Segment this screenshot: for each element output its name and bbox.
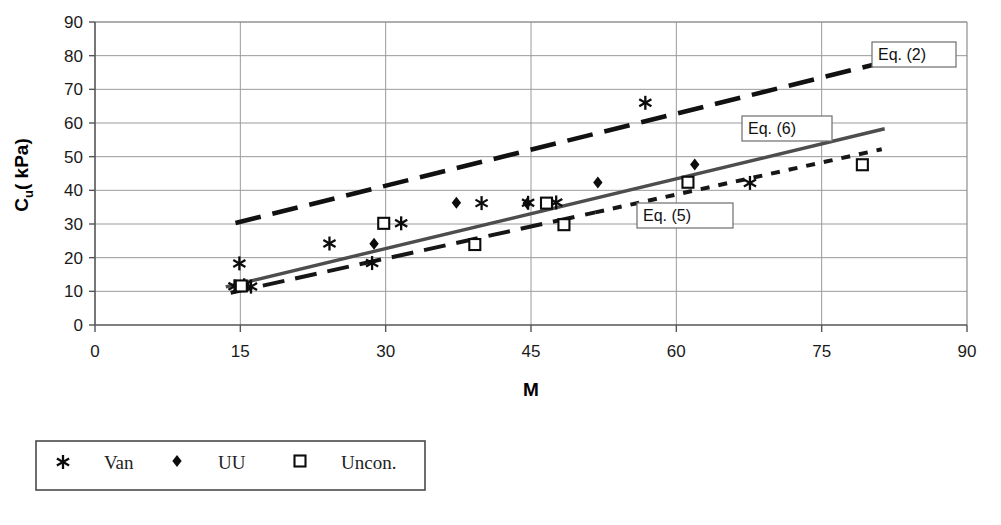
y-tick-label: 0 [74, 316, 83, 335]
y-axis-title-main: C [11, 198, 32, 212]
chart-canvas: 0102030405060708090 0153045607590 Eq. (2… [0, 0, 1001, 525]
annotation-label-eq-6: Eq. (6) [748, 120, 796, 137]
y-tick-label: 90 [64, 13, 83, 32]
data-point-square [558, 219, 569, 230]
x-tick-label: 30 [376, 342, 395, 361]
data-point-square [682, 177, 693, 188]
data-point-square [378, 218, 389, 229]
data-point-square [469, 239, 480, 250]
legend-marker-square [295, 456, 306, 467]
x-tick-label: 60 [667, 342, 686, 361]
data-point-square [236, 280, 247, 291]
x-tick-label: 75 [812, 342, 831, 361]
y-tick-label: 80 [64, 47, 83, 66]
annotation-eq-2: Eq. (2) [872, 42, 956, 67]
legend-label-uu: UU [218, 452, 246, 473]
annotation-label-eq-5: Eq. (5) [643, 207, 691, 224]
x-tick-label: 0 [90, 342, 99, 361]
annotation-eq-6: Eq. (6) [742, 116, 832, 141]
legend-items: VanUUUncon. [57, 452, 396, 473]
legend: VanUUUncon. [36, 441, 425, 490]
y-tick-label: 70 [64, 80, 83, 99]
x-axis-title: M [523, 379, 539, 400]
data-point-square [857, 159, 868, 170]
y-axis-title-unit: ( kPa) [11, 138, 32, 190]
y-tick-label: 20 [64, 249, 83, 268]
x-tick-label: 90 [958, 342, 977, 361]
figure-root: 0102030405060708090 0153045607590 Eq. (2… [0, 0, 1001, 525]
y-tick-label: 60 [64, 114, 83, 133]
legend-label-uncon: Uncon. [341, 452, 396, 473]
data-point-square [541, 198, 552, 209]
legend-label-van: Van [104, 452, 134, 473]
y-tick-label: 50 [64, 148, 83, 167]
x-tick-label: 15 [231, 342, 250, 361]
annotation-eq-5: Eq. (5) [637, 203, 733, 228]
annotation-label-eq-2: Eq. (2) [878, 46, 926, 63]
y-tick-label: 30 [64, 215, 83, 234]
x-tick-label: 45 [522, 342, 541, 361]
y-tick-label: 10 [64, 282, 83, 301]
y-tick-label: 40 [64, 181, 83, 200]
y-axis-title-subscript: u [21, 190, 36, 198]
